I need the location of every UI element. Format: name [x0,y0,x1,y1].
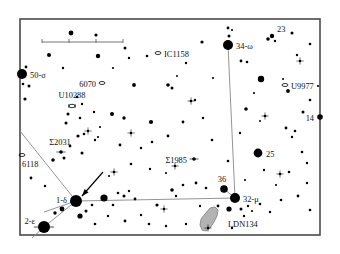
field-star [280,199,283,202]
field-star [94,139,96,141]
named-star [220,185,228,193]
field-star [258,76,264,82]
field-star [185,223,187,225]
field-star [243,215,245,217]
field-star [294,130,297,133]
field-star [246,61,249,64]
field-star [53,211,56,214]
field-star [91,204,94,207]
field-star [185,62,187,64]
field-star [165,172,167,174]
field-star [151,141,154,144]
field-star [22,83,25,86]
field-star [227,27,230,30]
field-star [83,133,86,136]
field-star [239,132,241,134]
field-star [165,225,167,227]
field-star [291,32,294,35]
field-star [170,188,174,192]
object-label: 6070 [79,80,96,89]
star-label: 23 [277,25,285,34]
field-star [288,171,291,174]
field-star [128,57,130,59]
field-star [309,99,312,102]
field-star [302,111,305,114]
field-star [140,214,142,216]
star-label: 50-σ [30,71,46,80]
field-star [309,209,312,212]
field-star [93,111,95,113]
field-star [124,220,127,223]
field-star [134,198,137,201]
field-star [110,112,114,116]
nebula-label-ldn134: LDN134 [228,220,259,229]
field-star [132,83,136,87]
field-star [119,144,122,147]
field-star [227,160,230,163]
field-star [274,40,276,42]
field-star [175,195,177,197]
field-star [85,210,88,213]
field-star [306,182,308,184]
field-star [62,67,64,69]
field-star [155,203,158,206]
field-star [112,67,114,69]
object-label: 6118 [22,160,38,169]
field-star [23,97,26,100]
star-label: 34-ω [236,42,253,51]
field-star [81,152,84,155]
field-star [108,175,110,177]
field-star [51,158,55,162]
field-star [149,120,153,124]
named-star [17,69,27,79]
field-star [306,162,308,164]
field-star [76,134,79,137]
field-star [297,195,300,198]
field-star [117,192,120,195]
field-star [202,117,204,119]
named-star [270,34,274,38]
field-star [124,47,127,50]
field-star [94,223,97,226]
field-star [94,33,97,36]
field-star [266,37,270,41]
field-star [77,213,82,218]
field-star [259,120,261,122]
field-star [286,89,290,93]
field-star [253,92,255,94]
field-star [96,54,100,58]
field-star [259,203,262,206]
named-star [317,114,323,120]
field-star [226,206,231,211]
field-star [30,177,33,180]
field-star [65,122,68,125]
field-star [100,194,107,201]
field-star [200,40,203,43]
named-star [70,195,82,207]
field-star [244,107,248,111]
field-star [263,169,265,171]
field-star [148,223,151,226]
field-star [69,31,74,36]
field-star [122,116,125,119]
field-star [171,87,174,90]
field-star [309,43,312,46]
field-star [228,35,231,38]
field-star [296,54,298,56]
field-star [285,127,288,130]
field-star [199,205,201,207]
field-star [211,139,214,142]
named-star [223,40,233,50]
field-star [205,187,208,190]
field-star [244,179,246,181]
star-label: 32-μ [243,195,259,204]
field-star [44,185,46,187]
field-star [269,211,271,213]
field-star [182,121,185,124]
field-star [81,103,83,105]
field-star [176,75,178,77]
object-label: IC1158 [164,50,189,59]
field-star [130,163,133,166]
field-star [149,168,151,170]
field-star [275,184,277,186]
